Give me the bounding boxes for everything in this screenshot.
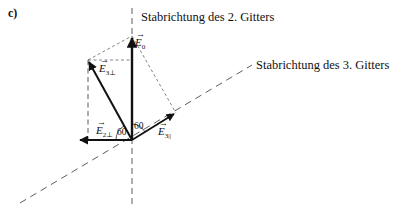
- grid2-axis-label: Stabrichtung des 2. Gitters: [141, 10, 274, 25]
- angle-label-left: 60: [117, 127, 127, 137]
- label-E0: →E0: [135, 36, 145, 51]
- label-E3perp: →E3⊥: [99, 62, 116, 77]
- angle-label-right: 60: [134, 121, 144, 131]
- grid3-axis-label: Stabrichtung des 3. Gitters: [256, 58, 389, 73]
- vector-arrow-icon: →: [159, 118, 168, 128]
- grid3-axis: [20, 65, 252, 203]
- vector-arrow-icon: →: [100, 55, 109, 65]
- label-E3par: →E3||: [158, 125, 171, 140]
- label-E2perp: →E2⊥: [96, 124, 113, 139]
- construction-line: [88, 36, 132, 60]
- part-label: c): [8, 6, 17, 21]
- vector-arrow-icon: →: [97, 117, 106, 127]
- vector-arrow-icon: →: [136, 29, 145, 39]
- vector-diagram: [0, 0, 396, 216]
